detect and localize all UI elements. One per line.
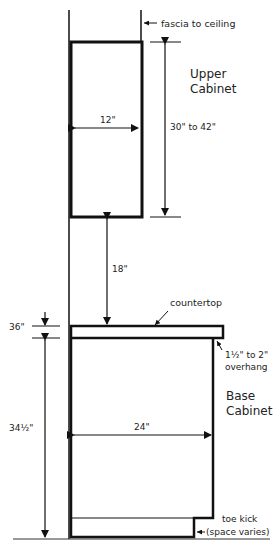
base-width-label: 24"	[134, 422, 150, 432]
countertop-label: countertop	[170, 297, 222, 308]
upper-width-label: 12"	[100, 115, 116, 125]
overhang-label-2: overhang	[225, 362, 268, 372]
overhang-label-1: 1½" to 2"	[225, 350, 268, 360]
fascia-label: fascia to ceiling	[161, 18, 235, 29]
base-title-2: Cabinet	[226, 404, 273, 418]
upper-title-1: Upper	[190, 67, 226, 81]
upper-height-label: 30" to 42"	[170, 122, 216, 132]
upper-cabinet	[71, 42, 142, 217]
counter-height-label: 36"	[9, 322, 25, 332]
toe-kick-label-1: toe kick	[222, 514, 258, 524]
countertop	[71, 326, 223, 338]
cabinet-diagram: fascia to ceiling 12" 30" to 42" Upper C…	[0, 0, 280, 551]
upper-title-2: Cabinet	[190, 82, 237, 96]
countertop-pointer	[155, 311, 168, 325]
base-height-label: 34½"	[9, 423, 33, 433]
gap-label: 18"	[112, 264, 128, 274]
base-cabinet	[71, 338, 213, 537]
toe-kick-label-2: (space varies)	[206, 527, 270, 537]
base-title-1: Base	[226, 389, 255, 403]
overhang-pointer	[217, 341, 222, 350]
